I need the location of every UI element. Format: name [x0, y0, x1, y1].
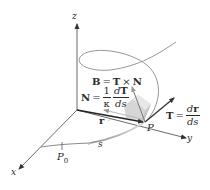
normal-equation: N = 1κ dTds [81, 86, 129, 109]
z-axis-label: z [72, 12, 77, 21]
point-p-label: P [147, 123, 154, 133]
curve-lower [41, 143, 90, 147]
x-axis [19, 110, 77, 169]
x-axis-label: x [11, 168, 16, 177]
point-p0-label: P0 [57, 152, 68, 165]
y-axis-label: y [187, 134, 192, 143]
arc-length-s-label: s [98, 140, 103, 149]
tangent-equation: T = drds [166, 104, 200, 127]
position-vector-r-label: r [99, 116, 104, 126]
